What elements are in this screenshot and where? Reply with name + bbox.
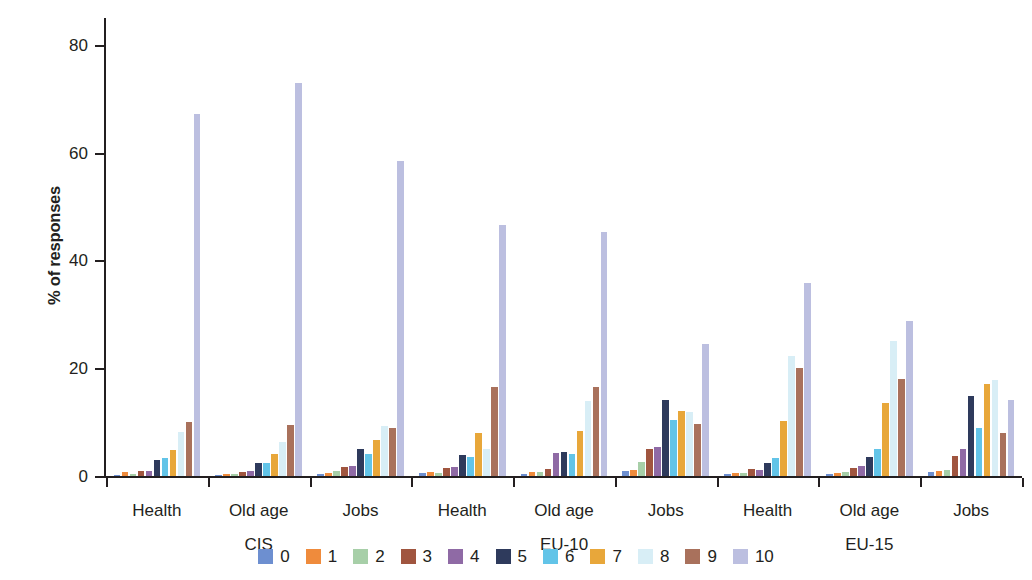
legend-label: 0 bbox=[280, 548, 289, 565]
y-axis-tick bbox=[95, 153, 105, 155]
y-axis-tick-label: 0 bbox=[46, 468, 88, 485]
bar bbox=[724, 474, 731, 476]
bar bbox=[231, 474, 238, 476]
bar bbox=[247, 471, 254, 476]
legend-item[interactable]: 0 bbox=[258, 548, 289, 565]
legend-swatch bbox=[733, 549, 748, 564]
legend-item[interactable]: 4 bbox=[448, 548, 479, 565]
bar bbox=[569, 454, 576, 476]
bar bbox=[928, 472, 935, 476]
bar bbox=[874, 449, 881, 476]
bar bbox=[992, 380, 999, 476]
bar bbox=[223, 474, 230, 476]
legend-item[interactable]: 3 bbox=[401, 548, 432, 565]
legend-item[interactable]: 10 bbox=[733, 548, 774, 565]
x-axis-tick bbox=[208, 478, 210, 487]
bar bbox=[826, 474, 833, 476]
x-axis-tick bbox=[310, 478, 312, 487]
bar bbox=[475, 433, 482, 476]
bar bbox=[467, 457, 474, 476]
legend-label: 7 bbox=[612, 548, 621, 565]
bar bbox=[389, 428, 396, 476]
legend-label: 4 bbox=[470, 548, 479, 565]
legend-swatch bbox=[685, 549, 700, 564]
bar bbox=[906, 321, 913, 476]
bar bbox=[365, 454, 372, 476]
legend-swatch bbox=[638, 549, 653, 564]
legend-label: 9 bbox=[707, 548, 716, 565]
legend-swatch bbox=[306, 549, 321, 564]
bar bbox=[834, 473, 841, 476]
chart-legend: 012345678910 bbox=[0, 548, 1032, 565]
bar bbox=[1000, 433, 1007, 476]
bar bbox=[788, 356, 795, 476]
bar bbox=[646, 449, 653, 476]
bar bbox=[577, 431, 584, 476]
bar bbox=[357, 449, 364, 476]
bar bbox=[553, 453, 560, 476]
legend-swatch bbox=[353, 549, 368, 564]
legend-item[interactable]: 9 bbox=[685, 548, 716, 565]
bar bbox=[287, 425, 294, 476]
bar bbox=[381, 426, 388, 476]
bar bbox=[295, 83, 302, 476]
bar bbox=[976, 428, 983, 476]
bar bbox=[545, 469, 552, 476]
x-axis-tick bbox=[818, 478, 820, 487]
legend-label: 8 bbox=[660, 548, 669, 565]
legend-item[interactable]: 7 bbox=[590, 548, 621, 565]
x-axis-category-label: Health bbox=[743, 502, 792, 520]
bar bbox=[483, 449, 490, 476]
legend-item[interactable]: 5 bbox=[496, 548, 527, 565]
bar bbox=[670, 420, 677, 476]
bar bbox=[435, 473, 442, 476]
legend-item[interactable]: 2 bbox=[353, 548, 384, 565]
bar bbox=[772, 458, 779, 476]
bar bbox=[349, 466, 356, 476]
bar bbox=[194, 114, 201, 476]
bar bbox=[443, 468, 450, 476]
legend-item[interactable]: 8 bbox=[638, 548, 669, 565]
bar bbox=[585, 401, 592, 476]
bar bbox=[764, 463, 771, 476]
x-axis-tick bbox=[920, 478, 922, 487]
bar bbox=[317, 474, 324, 476]
bar bbox=[427, 472, 434, 476]
bar bbox=[561, 452, 568, 476]
x-axis-tick bbox=[513, 478, 515, 487]
legend-label: 1 bbox=[328, 548, 337, 565]
y-axis-tick bbox=[95, 476, 105, 478]
bar bbox=[968, 396, 975, 476]
legend-label: 6 bbox=[565, 548, 574, 565]
x-axis-category-label: Health bbox=[438, 502, 487, 520]
bar bbox=[804, 283, 811, 476]
legend-label: 10 bbox=[755, 548, 774, 565]
legend-item[interactable]: 1 bbox=[306, 548, 337, 565]
bar bbox=[686, 412, 693, 476]
bar bbox=[186, 422, 193, 476]
bar bbox=[263, 463, 270, 476]
bar bbox=[130, 474, 137, 476]
legend-label: 5 bbox=[518, 548, 527, 565]
x-axis-category-label: Old age bbox=[840, 502, 900, 520]
legend-swatch bbox=[543, 549, 558, 564]
bar bbox=[114, 475, 121, 476]
bar bbox=[858, 466, 865, 476]
bar bbox=[732, 473, 739, 476]
y-axis-tick bbox=[95, 260, 105, 262]
bar bbox=[748, 469, 755, 476]
bar bbox=[122, 472, 129, 476]
legend-swatch bbox=[401, 549, 416, 564]
bar bbox=[890, 341, 897, 476]
legend-label: 3 bbox=[423, 548, 432, 565]
y-axis-tick-label: 20 bbox=[46, 360, 88, 377]
bar bbox=[325, 473, 332, 476]
bar bbox=[850, 468, 857, 476]
bar bbox=[279, 442, 286, 476]
bar bbox=[960, 449, 967, 476]
x-axis-tick bbox=[411, 478, 413, 487]
bar bbox=[373, 440, 380, 476]
legend-item[interactable]: 6 bbox=[543, 548, 574, 565]
bar bbox=[630, 470, 637, 476]
bar bbox=[397, 161, 404, 476]
